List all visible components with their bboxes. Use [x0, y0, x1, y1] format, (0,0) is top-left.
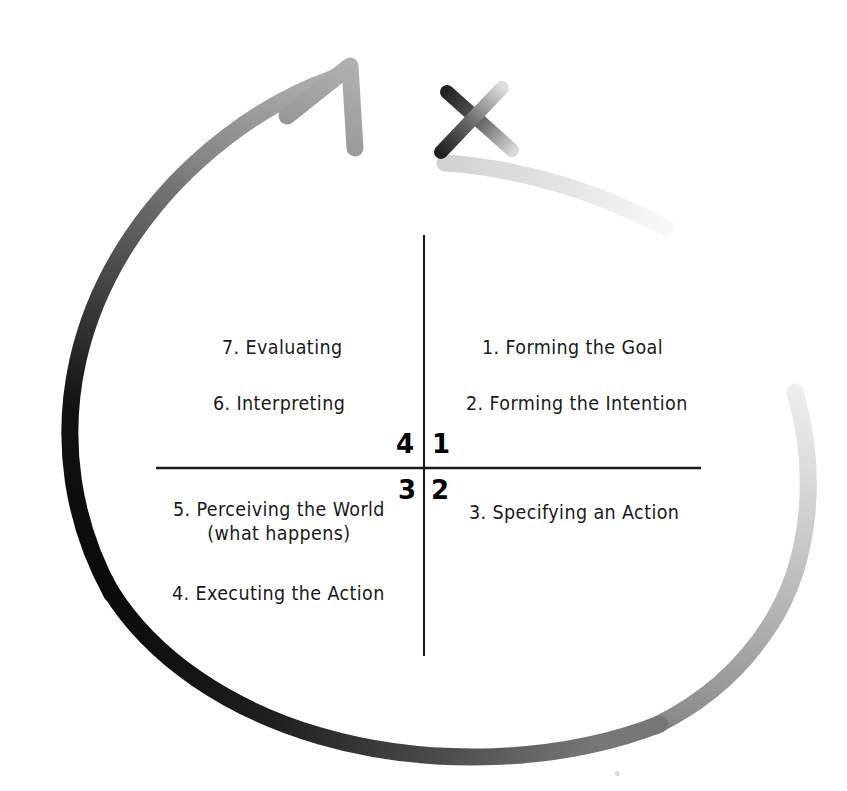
stage-label-4-executing-the-action: 4. Executing the Action — [172, 582, 385, 605]
cross-out-x — [441, 88, 512, 152]
stage-label-2-forming-the-intention: 2. Forming the Intention — [466, 392, 688, 415]
quadrant-number-2: 2 — [431, 477, 449, 503]
stage-label-3-specifying-an-action: 3. Specifying an Action — [469, 501, 679, 524]
action-cycle-loop — [70, 66, 808, 757]
arrowhead-icon — [287, 66, 355, 148]
quadrant-number-1: 1 — [432, 431, 450, 457]
stage-label-5-perceiving-the-world: 5. Perceiving the World (what happens) — [173, 498, 385, 546]
diagram-canvas: 4 1 3 2 7. Evaluating 6. Interpreting 5.… — [0, 0, 847, 791]
loop-right-segment — [655, 392, 808, 726]
stage-label-7-evaluating: 7. Evaluating — [222, 336, 342, 359]
scan-speck — [615, 771, 620, 776]
quadrant-number-4: 4 — [396, 431, 414, 457]
stage-label-1-forming-the-goal: 1. Forming the Goal — [482, 336, 663, 359]
loop-tail-segment — [445, 163, 666, 228]
loop-bottom-segment — [110, 590, 660, 757]
diagram-vector-layer — [0, 0, 847, 791]
stage-label-6-interpreting: 6. Interpreting — [213, 392, 345, 415]
quadrant-number-3: 3 — [398, 477, 416, 503]
